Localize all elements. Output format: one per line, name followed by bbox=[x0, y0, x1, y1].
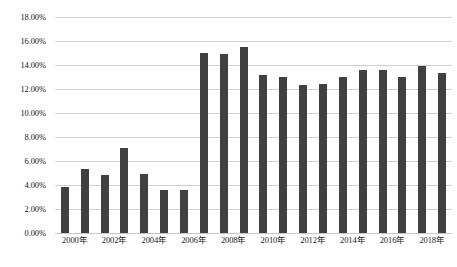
bar bbox=[180, 190, 188, 233]
bar bbox=[418, 66, 426, 233]
x-tick-label: 2006年 bbox=[181, 236, 207, 245]
x-tick-label: 2004年 bbox=[141, 236, 167, 245]
x-tick-label: 2012年 bbox=[300, 236, 326, 245]
x-tick-label: 2008年 bbox=[221, 236, 247, 245]
x-tick-label: 2002年 bbox=[102, 236, 128, 245]
x-tick-label: 2010年 bbox=[261, 236, 287, 245]
y-tick-label: 12.00% bbox=[20, 85, 46, 94]
bar bbox=[379, 70, 387, 233]
bar bbox=[279, 77, 287, 233]
bar bbox=[200, 53, 208, 233]
bar bbox=[81, 169, 89, 233]
bar bbox=[240, 47, 248, 233]
bar bbox=[339, 77, 347, 233]
bar bbox=[61, 187, 69, 233]
y-tick-label: 16.00% bbox=[20, 37, 46, 46]
y-tick-label: 14.00% bbox=[20, 61, 46, 70]
x-axis: 2000年2002年2004年2006年2008年2010年2012年2014年… bbox=[55, 236, 452, 254]
bar bbox=[359, 70, 367, 233]
y-tick-label: 4.00% bbox=[25, 181, 46, 190]
bar-chart: 0.00%2.00%4.00%6.00%8.00%10.00%12.00%14.… bbox=[0, 0, 457, 267]
bar bbox=[220, 54, 228, 233]
y-tick-label: 10.00% bbox=[20, 109, 46, 118]
bar bbox=[299, 85, 307, 233]
bar bbox=[120, 148, 128, 233]
bar bbox=[319, 84, 327, 233]
y-tick-label: 0.00% bbox=[25, 229, 46, 238]
x-tick-label: 2000年 bbox=[62, 236, 88, 245]
bar bbox=[160, 190, 168, 233]
y-axis: 0.00%2.00%4.00%6.00%8.00%10.00%12.00%14.… bbox=[0, 0, 52, 267]
bars-layer bbox=[55, 17, 452, 233]
x-tick-label: 2018年 bbox=[419, 236, 445, 245]
x-tick-label: 2014年 bbox=[340, 236, 366, 245]
bar bbox=[438, 73, 446, 233]
bar bbox=[140, 174, 148, 233]
bar bbox=[398, 77, 406, 233]
bar bbox=[101, 175, 109, 233]
y-tick-label: 2.00% bbox=[25, 205, 46, 214]
bar bbox=[259, 75, 267, 233]
y-tick-label: 6.00% bbox=[25, 157, 46, 166]
y-tick-label: 8.00% bbox=[25, 133, 46, 142]
y-tick-label: 18.00% bbox=[20, 13, 46, 22]
gridline bbox=[55, 233, 452, 234]
x-tick-label: 2016年 bbox=[380, 236, 406, 245]
